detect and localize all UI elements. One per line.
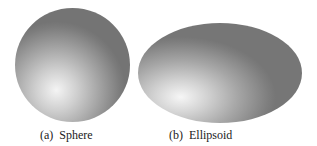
ellipsoid-shaded-rendering bbox=[138, 23, 302, 123]
caption-sphere: (a) Sphere bbox=[40, 128, 93, 142]
sphere-shaded-rendering bbox=[15, 8, 130, 122]
caption-ellipsoid: (b) Ellipsoid bbox=[169, 128, 232, 142]
